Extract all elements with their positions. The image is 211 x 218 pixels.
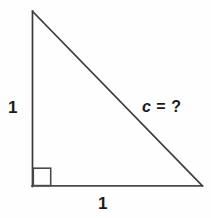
- label-horizontal-leg: 1: [98, 195, 107, 212]
- hypotenuse-equals-unknown: = ?: [151, 98, 181, 115]
- label-hypotenuse: c = ?: [142, 99, 181, 115]
- hypotenuse-variable: c: [142, 98, 151, 115]
- right-triangle-figure: 1 1 c = ?: [0, 0, 211, 218]
- label-vertical-leg: 1: [8, 99, 17, 116]
- right-angle-marker-icon: [33, 168, 50, 185]
